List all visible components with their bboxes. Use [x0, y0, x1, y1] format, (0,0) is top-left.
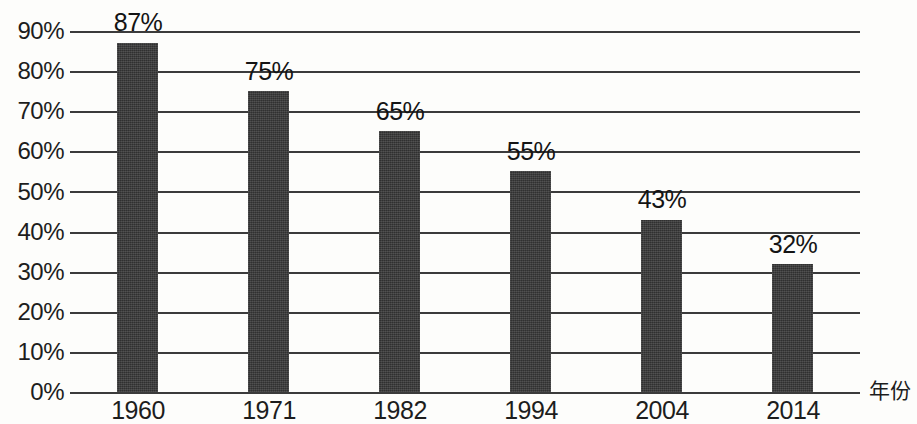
y-axis-labels: 90% 80% 70% 60% 50% 40% 30% 20% 10% 0% — [0, 0, 64, 424]
bar-2004 — [641, 220, 682, 393]
gridline-60 — [70, 151, 860, 153]
gridline-80 — [70, 71, 860, 73]
bar-value-1994: 55% — [507, 137, 556, 166]
y-tick-label: 20% — [17, 298, 64, 326]
bar-value-1982: 65% — [376, 97, 425, 126]
y-tick-label: 40% — [17, 218, 64, 246]
x-tick-label-2004: 2004 — [635, 396, 689, 424]
bar-1960 — [117, 43, 158, 392]
bar-2014 — [772, 264, 813, 392]
bar-chart: 90% 80% 70% 60% 50% 40% 30% 20% 10% 0% 8… — [0, 0, 917, 424]
axis-baseline — [70, 392, 860, 394]
bar-1994 — [510, 171, 551, 392]
gridline-40 — [70, 232, 860, 234]
x-tick-label-1994: 1994 — [504, 396, 558, 424]
gridline-10 — [70, 352, 860, 354]
gridline-20 — [70, 312, 860, 314]
x-tick-label-2014: 2014 — [766, 396, 820, 424]
x-axis-title: 年份 — [869, 374, 911, 404]
y-tick-label: 30% — [17, 258, 64, 286]
y-tick-label: 80% — [17, 57, 64, 85]
bar-value-2014: 32% — [769, 230, 818, 259]
gridline-50 — [70, 191, 860, 193]
gridline-70 — [70, 111, 860, 113]
gridline-90 — [70, 31, 860, 33]
bar-1971 — [248, 91, 289, 392]
bar-value-1971: 75% — [245, 57, 294, 86]
plot-area — [70, 31, 860, 392]
x-tick-label-1982: 1982 — [373, 396, 427, 424]
y-tick-label: 60% — [17, 137, 64, 165]
bar-value-1960: 87% — [114, 8, 163, 37]
y-tick-label: 10% — [17, 338, 64, 366]
bar-1982 — [379, 131, 420, 392]
x-tick-label-1971: 1971 — [242, 396, 296, 424]
y-tick-label: 70% — [17, 97, 64, 125]
bar-value-2004: 43% — [638, 185, 687, 214]
y-tick-label: 50% — [17, 178, 64, 206]
y-tick-label: 0% — [30, 378, 64, 406]
x-tick-label-1960: 1960 — [111, 396, 165, 424]
y-tick-label: 90% — [17, 17, 64, 45]
gridline-30 — [70, 272, 860, 274]
